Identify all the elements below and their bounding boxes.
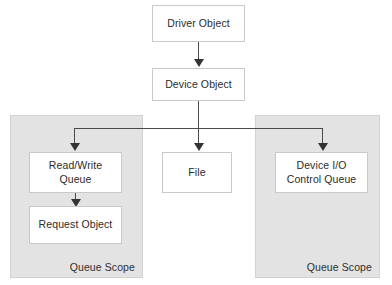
- connector-distribution-bus: [74, 128, 323, 129]
- node-read-write-queue-label: Read/Write Queue: [49, 159, 102, 186]
- node-read-write-queue: Read/Write Queue: [29, 152, 122, 193]
- arrowhead-down-icon-device-io-queue: [318, 143, 328, 151]
- queue-scope-label-right: Queue Scope: [307, 261, 372, 273]
- arrowhead-down-icon-device-to-file: [194, 143, 204, 151]
- arrowhead-down-icon-driver-to-device: [194, 59, 204, 67]
- node-read-write-queue-label-line2: Queue: [49, 173, 102, 186]
- node-driver-object-label: Driver Object: [167, 17, 230, 30]
- node-read-write-queue-label-line1: Read/Write: [49, 159, 102, 172]
- node-request-object: Request Object: [29, 206, 122, 244]
- node-driver-object: Driver Object: [152, 5, 245, 42]
- node-device-io-control-queue-label: Device I/O Control Queue: [287, 159, 357, 186]
- node-device-io-control-queue-label-line1: Device I/O: [287, 159, 357, 172]
- connector-device-to-file: [198, 101, 199, 145]
- node-request-object-label: Request Object: [39, 218, 113, 231]
- node-device-object-label: Device Object: [165, 78, 232, 91]
- arrowhead-down-icon-read-write-queue: [70, 143, 80, 151]
- node-device-io-control-queue-label-line2: Control Queue: [287, 173, 357, 186]
- diagram-canvas: Queue Scope Queue Scope Driver Object De…: [0, 0, 392, 285]
- queue-scope-label-left: Queue Scope: [70, 261, 135, 273]
- queue-scope-panel-left: Queue Scope: [10, 115, 143, 278]
- node-file: File: [162, 152, 232, 193]
- queue-scope-panel-right: Queue Scope: [255, 115, 380, 278]
- node-device-io-control-queue: Device I/O Control Queue: [275, 152, 368, 193]
- node-device-object: Device Object: [152, 68, 245, 101]
- node-file-label: File: [188, 166, 205, 179]
